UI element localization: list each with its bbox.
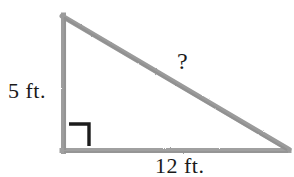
triangle-outline — [62, 15, 289, 152]
label-vertical-leg: 5 ft. — [8, 80, 46, 102]
geometry-figure: 5 ft. 12 ft. ? — [0, 0, 294, 177]
label-hypotenuse-unknown: ? — [177, 49, 188, 73]
right-angle-marker-icon — [69, 124, 89, 146]
triangle-side-hypotenuse-shade — [64, 18, 287, 150]
label-horizontal-leg: 12 ft. — [155, 155, 204, 177]
